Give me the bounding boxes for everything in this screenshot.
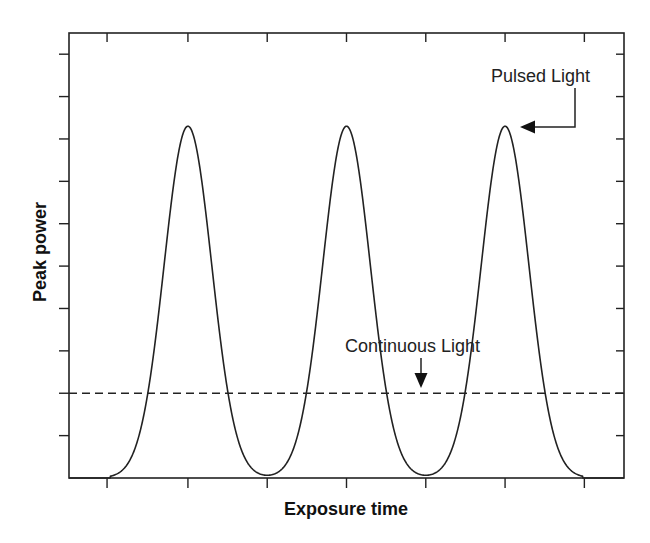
plot-frame: [69, 33, 624, 478]
y-axis-title: Peak power: [30, 202, 50, 302]
chart: Pulsed Light Continuous Light Exposure t…: [0, 0, 650, 543]
pulsed-light-curve: [69, 126, 624, 478]
axis-ticks: [59, 33, 624, 488]
arrow-down-icon: [415, 373, 428, 388]
continuous-light-label: Continuous Light: [345, 336, 480, 356]
pulsed-light-leader: [533, 88, 575, 127]
pulsed-light-label: Pulsed Light: [491, 66, 590, 86]
arrow-left-icon: [520, 121, 535, 134]
x-axis-title: Exposure time: [284, 499, 408, 519]
